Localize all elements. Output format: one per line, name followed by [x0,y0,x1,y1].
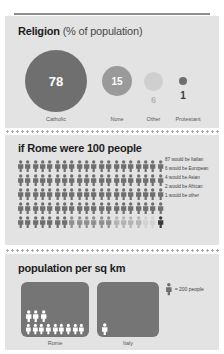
person-icon [113,159,120,173]
person-icon [32,322,39,335]
person-icon [142,215,149,229]
person-icon [61,201,68,215]
label-protestant: Protestant [168,116,208,122]
person-icon [98,187,105,201]
people-legend-label: 4 would be Asian [165,175,224,180]
person-icon [127,173,134,187]
person-icon [113,173,120,187]
person-icon [54,173,61,187]
person-icon [46,159,53,173]
people-panel: if Rome were 100 people 87 would be Ital… [5,135,219,245]
person-icon [17,173,24,187]
person-icon [127,159,134,173]
person-icon [25,309,32,322]
person-icon [90,215,97,229]
person-icon [135,173,142,187]
people-title: if Rome were 100 people [18,142,142,154]
person-icon [149,159,156,173]
person-icon [45,322,52,335]
population-title: population per sq km [18,262,125,274]
religion-title-sub: (% of population) [63,25,143,37]
religion-title-bold: Religion [18,25,60,37]
person-icon [142,187,149,201]
person-icon [68,201,75,215]
people-legend-label: 6 would be European [165,166,224,171]
person-icon [39,159,46,173]
person-icon [32,159,39,173]
person-icon [52,322,59,335]
person-icon [105,215,112,229]
religion-panel: Religion (% of population) 78 15 6 1 Cat… [5,16,219,128]
person-icon [135,187,142,201]
person-icon [24,215,31,229]
person-icon [105,201,112,215]
bubble-catholic: 78 [25,50,87,112]
religion-title: Religion (% of population) [18,25,142,37]
person-icon [149,187,156,201]
people-legend-row: 2 would be African [165,184,224,189]
person-icon [54,215,61,229]
top-bar [0,0,224,16]
person-icon [83,215,90,229]
people-legend-row: 4 would be Asian [165,175,224,180]
person-icon [83,159,90,173]
person-icon [135,201,142,215]
person-icon [61,159,68,173]
person-icon [83,187,90,201]
person-icon [32,309,39,322]
person-icon [46,201,53,215]
person-icon [120,201,127,215]
person-icon [39,201,46,215]
person-icon [149,201,156,215]
person-icon [105,187,112,201]
bubble-none: 15 [102,66,132,96]
people-legend: 87 would be Italian6 would be European4 … [165,157,224,202]
person-icon [157,159,164,173]
person-icon [135,215,142,229]
person-icon [90,201,97,215]
person-icon [142,159,149,173]
person-icon [72,322,79,335]
person-icon [24,201,31,215]
person-icon [101,322,108,336]
person-icon [46,187,53,201]
person-icon [76,201,83,215]
bubble-other [144,72,163,91]
population-panel: population per sq km Rome Italy = 200 pe… [5,254,219,350]
person-icon [157,187,164,201]
person-icon [32,173,39,187]
person-icon [120,187,127,201]
person-icon [54,159,61,173]
person-icon [127,187,134,201]
person-icon [120,173,127,187]
person-icon [113,187,120,201]
person-icon [127,201,134,215]
people-legend-row: 6 would be European [165,166,224,171]
person-icon [61,173,68,187]
person-icon [65,322,72,335]
person-icon [105,159,112,173]
population-legend-text: = 200 people [175,286,204,292]
person-icon [83,201,90,215]
person-icon [157,173,164,187]
person-icon [68,159,75,173]
label-none: None [97,116,137,122]
person-icon [32,201,39,215]
person-icon [90,159,97,173]
person-icon [135,159,142,173]
italy-figures [101,322,108,336]
bubble-protestant [179,77,187,85]
person-icon [76,173,83,187]
person-icon [40,309,47,322]
person-icon [68,187,75,201]
person-icon [157,201,164,215]
person-icon [39,173,46,187]
person-icon [120,159,127,173]
person-icon [46,173,53,187]
population-label-italy: Italy [97,340,159,346]
person-icon [32,187,39,201]
divider-dotted-2 [5,249,219,252]
person-icon [113,215,120,229]
bubble-none-value: 15 [111,76,122,87]
person-icon [142,173,149,187]
